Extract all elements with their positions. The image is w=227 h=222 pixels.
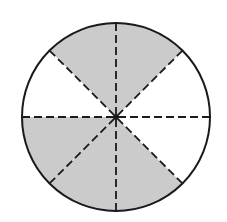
- center-point: [114, 115, 119, 120]
- fraction-circle-diagram: [0, 0, 227, 222]
